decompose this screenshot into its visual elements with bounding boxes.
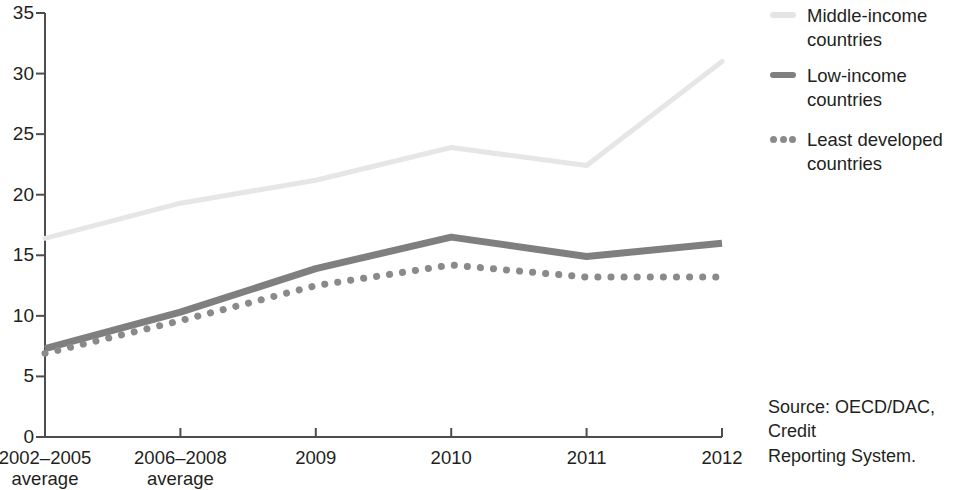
series-line-2 <box>45 265 722 353</box>
series-line-0 <box>45 62 722 239</box>
legend-swatch-dots-icon <box>768 128 798 150</box>
legend-item-middle-income[interactable]: Middle-income countries <box>768 4 927 52</box>
plot-area: 05101520253035 2002–2005 average2006–200… <box>0 0 760 490</box>
data-series <box>45 62 722 354</box>
chart-canvas <box>0 0 760 490</box>
axes <box>36 13 722 437</box>
chart-legend: Middle-income countries Low-income count… <box>768 0 966 200</box>
legend-swatch-line-icon <box>768 64 798 86</box>
legend-label: Low-income countries <box>807 64 907 112</box>
legend-swatch-line-icon <box>768 4 798 26</box>
legend-item-least-developed[interactable]: Least developed countries <box>768 128 943 176</box>
source-note: Source: OECD/DAC, Credit Reporting Syste… <box>768 395 966 468</box>
legend-label: Least developed countries <box>807 128 943 176</box>
legend-item-low-income[interactable]: Low-income countries <box>768 64 907 112</box>
legend-label: Middle-income countries <box>807 4 927 52</box>
chart-figure: 05101520253035 2002–2005 average2006–200… <box>0 0 966 490</box>
